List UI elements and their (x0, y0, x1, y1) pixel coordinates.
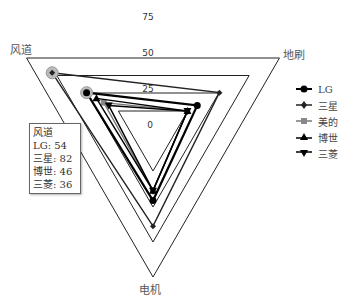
tick-label-25: 25 (142, 84, 153, 94)
data-point[interactable] (194, 102, 201, 109)
tick-label-0: 0 (147, 120, 153, 130)
legend: LG 三星 美的 博世 三菱 (296, 81, 338, 161)
triangle-down-marker-icon (296, 148, 312, 158)
axis-label-dishua: 地刷 (283, 46, 305, 62)
legend-item-midea[interactable]: 美的 (296, 113, 338, 129)
data-point[interactable] (83, 89, 90, 96)
diamond-marker-icon (296, 100, 312, 110)
tick-label-75: 75 (142, 12, 153, 22)
legend-item-bosch[interactable]: 博世 (296, 129, 338, 145)
tooltip: 风道 LG: 54 三星: 82 博世: 46 三菱: 36 (29, 123, 81, 194)
tick-label-50: 50 (142, 48, 153, 58)
legend-item-mitsubishi[interactable]: 三菱 (296, 145, 338, 161)
circle-marker-icon (296, 84, 312, 94)
tooltip-title: 风道 (33, 126, 77, 139)
square-marker-icon (296, 116, 312, 126)
axis-label-fengdao: 风道 (10, 41, 32, 57)
tooltip-line-samsung: 三星: 82 (33, 152, 77, 165)
tooltip-line-bosch: 博世: 46 (33, 165, 77, 178)
tooltip-line-mitsubishi: 三菱: 36 (33, 178, 77, 191)
data-point[interactable] (92, 94, 100, 101)
tooltip-line-lg: LG: 54 (33, 139, 77, 152)
data-point[interactable] (150, 197, 157, 204)
triangle-up-marker-icon (296, 132, 312, 142)
legend-item-samsung[interactable]: 三星 (296, 97, 338, 113)
legend-item-lg[interactable]: LG (296, 81, 338, 97)
axis-label-dianji: 电机 (139, 281, 161, 296)
series-line[interactable] (96, 98, 187, 190)
